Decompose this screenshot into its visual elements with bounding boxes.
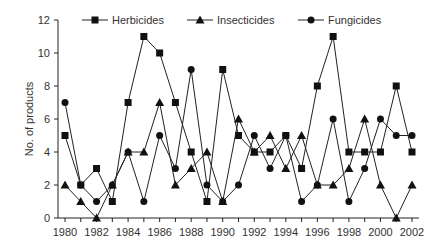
- triangle-marker-icon: [297, 131, 306, 139]
- x-tick-label: 1992: [242, 226, 266, 238]
- circle-marker-icon: [345, 198, 352, 205]
- circle-marker-icon: [62, 99, 69, 106]
- y-tick-label: 4: [44, 146, 50, 158]
- square-marker-icon: [203, 198, 210, 205]
- triangle-marker-icon: [266, 131, 275, 139]
- triangle-marker-icon: [360, 115, 369, 123]
- square-marker-icon: [298, 165, 305, 172]
- square-marker-icon: [188, 149, 195, 156]
- circle-marker-icon: [314, 182, 321, 189]
- x-tick-label: 2000: [368, 226, 392, 238]
- triangle-marker-icon: [344, 164, 353, 172]
- square-marker-icon: [393, 83, 400, 90]
- y-tick-label: 8: [44, 80, 50, 92]
- circle-marker-icon: [93, 198, 100, 205]
- square-marker-icon: [361, 149, 368, 156]
- square-marker-icon: [140, 33, 147, 40]
- square-marker-icon: [62, 132, 69, 139]
- circle-marker-icon: [267, 165, 274, 172]
- circle-marker-icon: [361, 165, 368, 172]
- line-chart: 0246810121980198219841986198819901992199…: [0, 0, 443, 251]
- x-tick-label: 1996: [305, 226, 329, 238]
- square-marker-icon: [314, 83, 321, 90]
- circle-marker-icon: [393, 132, 400, 139]
- square-marker-icon: [219, 66, 226, 73]
- square-marker-icon: [377, 149, 384, 156]
- legend-label: Fungicides: [328, 14, 382, 26]
- x-tick-label: 1984: [116, 226, 140, 238]
- x-tick-label: 1990: [210, 226, 234, 238]
- y-tick-label: 10: [38, 47, 50, 59]
- circle-legend-icon: [308, 17, 315, 24]
- triangle-marker-icon: [202, 148, 211, 156]
- circle-marker-icon: [125, 149, 132, 156]
- legend-item-fungicides: Fungicides: [298, 14, 382, 26]
- y-tick-label: 2: [44, 179, 50, 191]
- y-axis-label: No. of products: [23, 81, 35, 156]
- square-marker-icon: [125, 99, 132, 106]
- square-marker-icon: [156, 50, 163, 57]
- x-tick-label: 2002: [400, 226, 424, 238]
- square-marker-icon: [409, 149, 416, 156]
- x-tick-label: 1994: [274, 226, 298, 238]
- square-marker-icon: [267, 149, 274, 156]
- triangle-marker-icon: [376, 181, 385, 189]
- circle-marker-icon: [251, 132, 258, 139]
- square-marker-icon: [345, 149, 352, 156]
- circle-marker-icon: [77, 182, 84, 189]
- legend-item-herbicides: Herbicides: [82, 14, 164, 26]
- triangle-marker-icon: [234, 115, 243, 123]
- square-marker-icon: [93, 165, 100, 172]
- x-tick-label: 1998: [337, 226, 361, 238]
- circle-marker-icon: [235, 182, 242, 189]
- circle-marker-icon: [156, 132, 163, 139]
- square-marker-icon: [172, 99, 179, 106]
- circle-marker-icon: [282, 132, 289, 139]
- x-tick-label: 1980: [53, 226, 77, 238]
- triangle-marker-icon: [408, 181, 417, 189]
- circle-marker-icon: [219, 198, 226, 205]
- circle-marker-icon: [140, 198, 147, 205]
- y-tick-label: 6: [44, 113, 50, 125]
- circle-marker-icon: [298, 198, 305, 205]
- circle-marker-icon: [409, 132, 416, 139]
- legend-label: Herbicides: [112, 14, 164, 26]
- square-legend-icon: [92, 17, 99, 24]
- circle-marker-icon: [172, 165, 179, 172]
- triangle-marker-icon: [155, 98, 164, 106]
- square-marker-icon: [109, 198, 116, 205]
- x-tick-label: 1986: [147, 226, 171, 238]
- series-group: [61, 33, 417, 222]
- square-marker-icon: [330, 33, 337, 40]
- triangle-marker-icon: [61, 181, 70, 189]
- legend-item-insecticides: Insecticides: [187, 14, 275, 26]
- triangle-marker-icon: [281, 164, 290, 172]
- circle-marker-icon: [377, 116, 384, 123]
- y-tick-label: 0: [44, 212, 50, 224]
- circle-marker-icon: [109, 182, 116, 189]
- y-tick-label: 12: [38, 14, 50, 26]
- legend-label: Insecticides: [217, 14, 275, 26]
- x-tick-label: 1982: [84, 226, 108, 238]
- circle-marker-icon: [330, 116, 337, 123]
- circle-marker-icon: [188, 66, 195, 73]
- legend: HerbicidesInsecticidesFungicides: [82, 14, 382, 26]
- circle-marker-icon: [203, 182, 210, 189]
- x-tick-label: 1988: [179, 226, 203, 238]
